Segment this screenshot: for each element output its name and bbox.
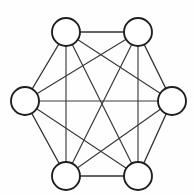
node-circle-icon xyxy=(124,162,152,190)
node-circle-icon xyxy=(158,87,186,115)
edge-layer xyxy=(25,32,172,176)
complete-graph-k6-canvas xyxy=(0,0,194,195)
node-circle-icon xyxy=(52,162,80,190)
node-circle-icon xyxy=(124,18,152,46)
graph-node-top-left[interactable] xyxy=(52,18,80,46)
node-circle-icon xyxy=(52,18,80,46)
graph-node-bottom-right[interactable] xyxy=(124,162,152,190)
node-circle-icon xyxy=(11,87,39,115)
graph-node-bottom-left[interactable] xyxy=(52,162,80,190)
node-layer xyxy=(11,18,186,190)
graph-node-right[interactable] xyxy=(158,87,186,115)
graph-figure xyxy=(0,0,194,195)
graph-node-top-right[interactable] xyxy=(124,18,152,46)
graph-node-left[interactable] xyxy=(11,87,39,115)
